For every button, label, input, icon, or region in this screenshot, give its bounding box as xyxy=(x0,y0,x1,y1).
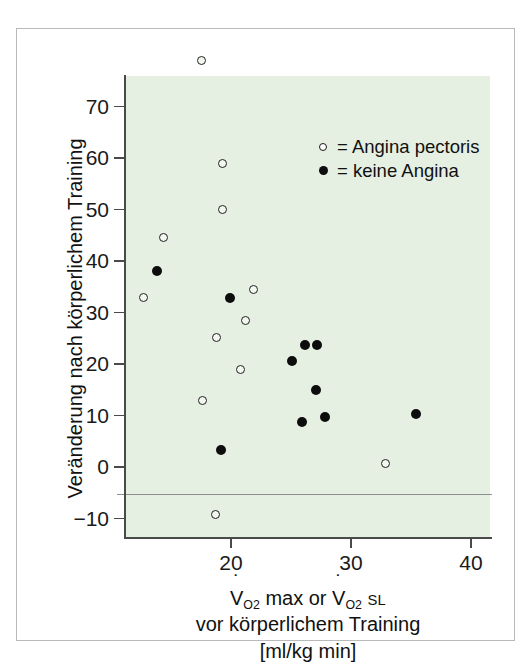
legend-item-angina-pectoris: = Angina pectoris xyxy=(315,135,479,159)
x-tick-label-30: 30 xyxy=(321,552,381,573)
y-tick-30 xyxy=(114,312,125,314)
v-dot-symbol-2: V xyxy=(332,585,345,611)
y-tick-60 xyxy=(114,157,125,159)
data-point xyxy=(198,396,207,405)
legend: = Angina pectoris = keine Angina xyxy=(315,135,479,182)
data-point xyxy=(211,510,220,519)
x-tick-30 xyxy=(350,537,352,548)
y-axis-title: Veränderung nach körperlichem Training xyxy=(64,89,87,549)
filled-circle-icon xyxy=(315,166,331,175)
x-tick-20 xyxy=(230,537,232,548)
open-circle-icon xyxy=(315,143,331,151)
y-tick-40 xyxy=(114,260,125,262)
y-tick-70 xyxy=(114,106,125,108)
y-tick-50 xyxy=(114,209,125,211)
y-tick--10 xyxy=(114,518,125,520)
data-point xyxy=(236,365,245,374)
x-axis-title-line-1: VO2 max or VO2 SL xyxy=(125,585,491,611)
legend-label-angina-pectoris: = Angina pectoris xyxy=(337,135,479,159)
x-tick-label-40: 40 xyxy=(441,552,501,573)
y-axis-line xyxy=(124,75,126,538)
x-tick-label-20: 20 xyxy=(201,552,261,573)
x-axis-title-line-3: [ml/kg min] xyxy=(125,638,491,664)
data-point xyxy=(218,159,227,168)
zero-reference-line xyxy=(117,494,492,495)
data-point xyxy=(212,333,221,342)
data-point xyxy=(225,293,235,303)
figure-frame: 706050403020100−10 203040 = Angina pecto… xyxy=(16,28,515,641)
y-tick-20 xyxy=(114,363,125,365)
v-dot-symbol: V xyxy=(230,585,243,611)
legend-item-keine-angina: = keine Angina xyxy=(315,159,479,183)
y-tick-10 xyxy=(114,415,125,417)
data-point xyxy=(311,385,321,395)
x-tick-40 xyxy=(470,537,472,548)
data-point xyxy=(139,293,148,302)
data-point xyxy=(297,417,307,427)
data-point xyxy=(197,56,206,65)
legend-label-keine-angina: = keine Angina xyxy=(337,159,459,183)
x-axis-title: VO2 max or VO2 SL vor körperlichem Train… xyxy=(125,585,491,664)
x-axis-title-line-2: vor körperlichem Training xyxy=(125,611,491,637)
data-point xyxy=(241,316,250,325)
figure-scatter-plot: 706050403020100−10 203040 = Angina pecto… xyxy=(0,0,532,667)
data-point xyxy=(152,266,162,276)
data-point xyxy=(320,412,330,422)
y-tick-0 xyxy=(114,466,125,468)
x-axis-line xyxy=(124,537,492,539)
